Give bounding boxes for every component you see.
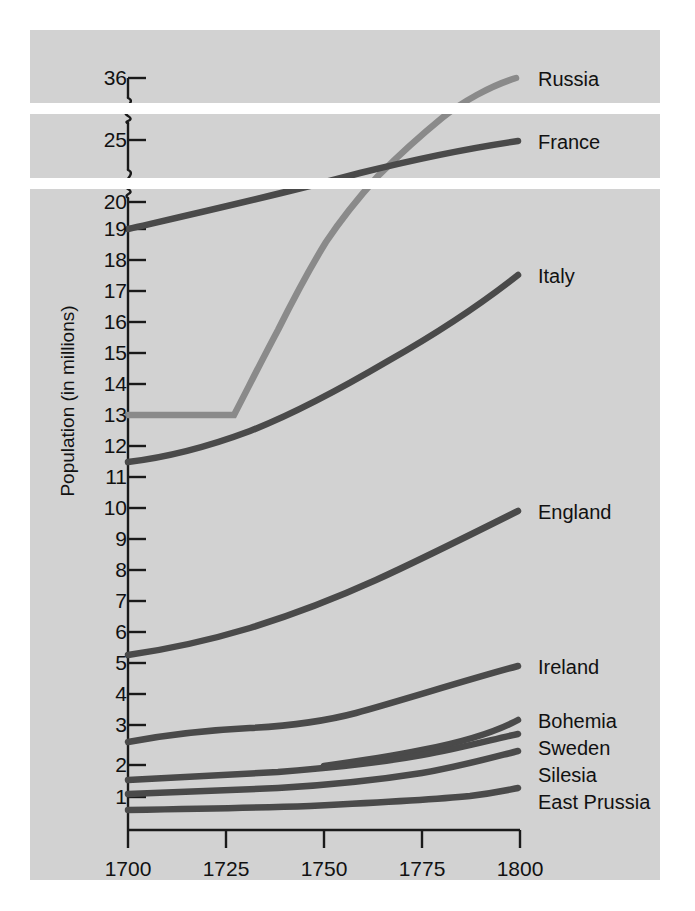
series-label-bohemia: Bohemia bbox=[538, 711, 617, 731]
series-label-russia: Russia bbox=[538, 69, 599, 89]
chart-figure: 36 25 20 19 18 17 16 15 14 13 12 11 10 9… bbox=[30, 30, 660, 880]
series-label-england: England bbox=[538, 502, 611, 522]
series-label-italy: Italy bbox=[538, 266, 575, 286]
series-label-sweden: Sweden bbox=[538, 738, 610, 758]
series-label-silesia: Silesia bbox=[538, 765, 597, 785]
series-labels: Russia France Italy England Ireland Bohe… bbox=[30, 30, 660, 880]
series-label-ireland: Ireland bbox=[538, 657, 599, 677]
series-label-east-prussia: East Prussia bbox=[538, 792, 650, 812]
series-label-france: France bbox=[538, 132, 600, 152]
